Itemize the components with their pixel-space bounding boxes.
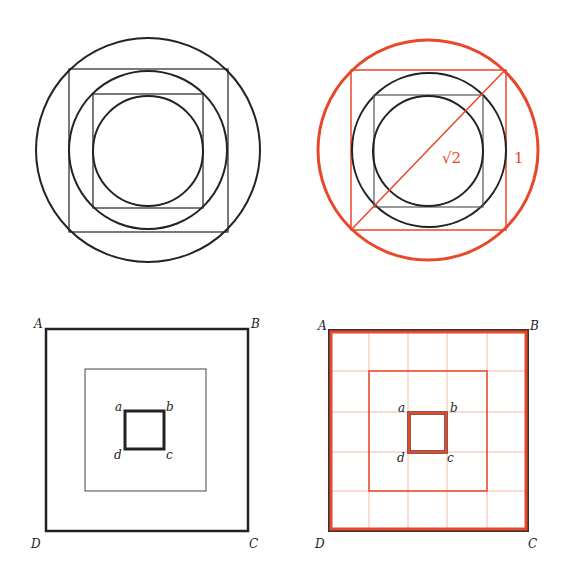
square-ABCD — [46, 329, 248, 531]
label-b: b — [166, 400, 174, 414]
label-a: a — [115, 400, 122, 414]
square-abcd-outline — [409, 413, 446, 452]
figure-bottom-left: A B C D a b c d — [30, 317, 260, 551]
label-D: D — [30, 537, 41, 551]
square-ABCD-outline — [330, 331, 527, 530]
figure-bottom-right: A B C D a b c d — [314, 319, 539, 551]
label-a: a — [398, 401, 405, 415]
middle-square-red — [369, 371, 487, 491]
square-ABCD-red — [331, 332, 526, 529]
label-one: 1 — [514, 149, 524, 167]
label-sqrt2: √2 — [442, 149, 461, 167]
label-d: d — [114, 448, 122, 462]
label-A: A — [33, 317, 43, 331]
label-c: c — [166, 448, 173, 462]
label-d: d — [397, 451, 405, 465]
label-B: B — [529, 319, 539, 333]
label-A: A — [317, 319, 327, 333]
label-C: C — [249, 537, 258, 551]
inner-circle — [93, 96, 203, 206]
label-c: c — [447, 451, 454, 465]
square-abcd-red — [409, 413, 446, 452]
grid-lines — [330, 331, 527, 530]
middle-square — [85, 369, 206, 491]
diagram-canvas: √2 1 A B C D a b c d A B C — [0, 0, 570, 579]
square-abcd — [125, 411, 164, 449]
figure-top-left — [36, 38, 260, 262]
label-C: C — [528, 537, 537, 551]
label-D: D — [314, 537, 325, 551]
figure-top-right: √2 1 — [318, 40, 538, 260]
label-b: b — [450, 401, 458, 415]
label-B: B — [250, 317, 260, 331]
